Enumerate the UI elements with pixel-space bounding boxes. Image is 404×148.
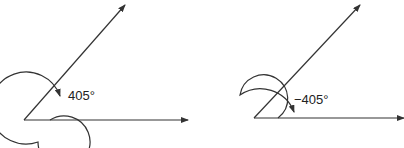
angle-label-negative: −405° <box>294 92 328 107</box>
rotation-arc <box>0 72 90 148</box>
angle-diagrams <box>0 0 404 148</box>
diagram-positive <box>0 5 188 148</box>
rotation-arc <box>240 75 294 118</box>
angle-label-positive: 405° <box>68 88 95 103</box>
